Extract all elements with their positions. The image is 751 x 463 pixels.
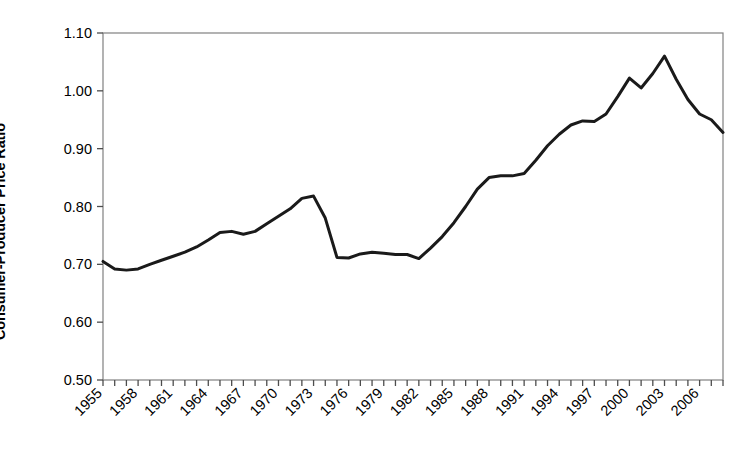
x-tick-label-1979: 1979 — [352, 385, 386, 419]
y-tick-label-0.60: 0.60 — [64, 314, 92, 330]
x-tick-label-1958: 1958 — [106, 385, 140, 419]
chart-figure: Consumer-Producer Price Ratio 0.500.600.… — [0, 0, 751, 463]
y-tick-label-1.00: 1.00 — [64, 83, 92, 99]
x-tick-label-2000: 2000 — [597, 385, 631, 419]
y-tick-label-0.70: 0.70 — [64, 256, 92, 272]
x-tick-label-1976: 1976 — [317, 385, 351, 419]
y-tick-label-0.80: 0.80 — [64, 199, 92, 215]
x-tick-label-1961: 1961 — [141, 385, 175, 419]
x-tick-label-2003: 2003 — [633, 385, 667, 419]
x-tick-label-1967: 1967 — [211, 385, 245, 419]
y-tick-label-0.50: 0.50 — [64, 372, 92, 388]
x-tick-label-1970: 1970 — [246, 385, 280, 419]
y-tick-label-1.10: 1.10 — [64, 25, 92, 41]
x-tick-label-1988: 1988 — [457, 385, 491, 419]
x-tick-label-1955: 1955 — [71, 385, 105, 419]
x-tick-label-1994: 1994 — [527, 385, 561, 419]
x-tick-label-2006: 2006 — [668, 385, 702, 419]
data-series-line — [103, 56, 723, 270]
x-tick-label-1982: 1982 — [387, 385, 421, 419]
x-tick-label-1991: 1991 — [492, 385, 526, 419]
x-tick-label-1997: 1997 — [562, 385, 596, 419]
y-tick-label-0.90: 0.90 — [64, 141, 92, 157]
x-tick-label-1973: 1973 — [282, 385, 316, 419]
x-tick-label-1985: 1985 — [422, 385, 456, 419]
plot-frame — [103, 33, 723, 380]
x-tick-label-1964: 1964 — [176, 385, 210, 419]
line-chart-plot: 0.500.600.700.800.901.001.10195519581961… — [0, 0, 751, 463]
